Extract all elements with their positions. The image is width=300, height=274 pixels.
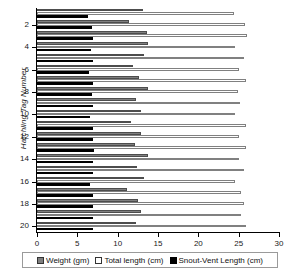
- x-tick-30: [279, 232, 280, 237]
- bar-group-tag-16: [37, 176, 279, 187]
- bar-group-tag-6: [37, 64, 279, 75]
- bar-group-tag-9: [37, 98, 279, 109]
- y-tick-8: [32, 92, 37, 93]
- y-tick-label-10: 10: [0, 109, 29, 118]
- snout-vent-bar: [37, 138, 93, 141]
- x-tick-15: [158, 232, 159, 237]
- legend-item-2: Snout-Vent Length (cm): [170, 256, 264, 265]
- y-tick-label-20: 20: [0, 221, 29, 230]
- bar-group-tag-8: [37, 86, 279, 97]
- x-tick-10: [118, 232, 119, 237]
- snout-vent-bar: [37, 116, 90, 119]
- snout-vent-bar: [37, 60, 93, 63]
- y-tick-label-18: 18: [0, 199, 29, 208]
- legend-label-0: Weight (gm): [46, 256, 89, 265]
- snout-vent-bar: [37, 161, 93, 164]
- snout-vent-bar: [37, 172, 93, 175]
- y-tick-20: [32, 226, 37, 227]
- y-tick-label-12: 12: [0, 132, 29, 141]
- bar-chart-figure: Hatchling Tag Number Weight (gm)Total le…: [0, 0, 300, 274]
- bar-group-tag-3: [37, 30, 279, 41]
- x-tick-label-5: 5: [62, 239, 92, 248]
- x-tick-0: [37, 232, 38, 237]
- snout-vent-bar: [37, 149, 94, 152]
- bar-group-tag-15: [37, 165, 279, 176]
- y-tick-4: [32, 47, 37, 48]
- snout-vent-bar: [37, 183, 90, 186]
- x-tick-label-15: 15: [143, 239, 173, 248]
- total-length-swatch: [95, 257, 102, 264]
- weight-swatch: [37, 257, 44, 264]
- snout-vent-bar: [37, 205, 93, 208]
- snout-vent-bar: [37, 93, 92, 96]
- bar-group-tag-12: [37, 131, 279, 142]
- snout-vent-bar: [37, 228, 93, 231]
- bar-group-tag-17: [37, 187, 279, 198]
- y-tick-label-16: 16: [0, 177, 29, 186]
- x-tick-label-0: 0: [22, 239, 52, 248]
- snout-vent-bar: [37, 37, 93, 40]
- x-tick-5: [77, 232, 78, 237]
- bar-group-tag-13: [37, 142, 279, 153]
- bar-group-tag-19: [37, 210, 279, 221]
- y-tick-label-6: 6: [0, 65, 29, 74]
- snout-vent-bar: [37, 49, 91, 52]
- bar-group-tag-2: [37, 19, 279, 30]
- bar-group-tag-10: [37, 109, 279, 120]
- bar-group-tag-14: [37, 154, 279, 165]
- legend-item-0: Weight (gm): [37, 256, 89, 265]
- x-tick-25: [239, 232, 240, 237]
- snout-vent-bar: [37, 71, 89, 74]
- y-tick-6: [32, 70, 37, 71]
- y-tick-label-8: 8: [0, 87, 29, 96]
- y-tick-16: [32, 182, 37, 183]
- legend-item-1: Total length (cm): [95, 256, 163, 265]
- bar-group-tag-18: [37, 198, 279, 209]
- legend-label-2: Snout-Vent Length (cm): [179, 256, 264, 265]
- bar-group-tag-11: [37, 120, 279, 131]
- plot-area: [37, 8, 279, 232]
- snout-vent-bar: [37, 217, 93, 220]
- y-tick-10: [32, 114, 37, 115]
- y-tick-label-2: 2: [0, 20, 29, 29]
- y-tick-2: [32, 25, 37, 26]
- chart-legend: Weight (gm)Total length (cm)Snout-Vent L…: [22, 252, 278, 268]
- snout-vent-bar: [37, 26, 92, 29]
- bar-group-tag-4: [37, 42, 279, 53]
- snout-vent-bar: [37, 127, 93, 130]
- x-tick-label-10: 10: [103, 239, 133, 248]
- x-tick-label-25: 25: [224, 239, 254, 248]
- snout-vent-bar: [37, 15, 88, 18]
- bar-group-tag-1: [37, 8, 279, 19]
- snout-vent-bar: [37, 82, 93, 85]
- x-tick-20: [198, 232, 199, 237]
- snout-vent-swatch: [170, 257, 177, 264]
- bar-group-tag-7: [37, 75, 279, 86]
- y-tick-18: [32, 204, 37, 205]
- bar-group-tag-20: [37, 221, 279, 232]
- bar-group-tag-5: [37, 53, 279, 64]
- snout-vent-bar: [37, 105, 93, 108]
- snout-vent-bar: [37, 194, 93, 197]
- x-tick-label-30: 30: [264, 239, 294, 248]
- legend-label-1: Total length (cm): [104, 256, 163, 265]
- y-tick-12: [32, 137, 37, 138]
- y-tick-label-4: 4: [0, 42, 29, 51]
- y-tick-14: [32, 159, 37, 160]
- x-tick-label-20: 20: [183, 239, 213, 248]
- y-tick-label-14: 14: [0, 154, 29, 163]
